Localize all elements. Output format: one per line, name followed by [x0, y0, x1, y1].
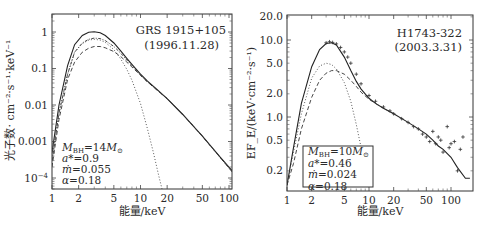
x-tick-label: 20 — [160, 192, 173, 204]
parameter-annotation: MBH=14M⊙a*=0.9ṁ=0.055α=0.18 — [61, 141, 123, 186]
chart-title: GRS 1915+105 — [136, 23, 226, 37]
y-tick-label: 0.01 — [25, 99, 48, 111]
param-line: ṁ=0.024 — [308, 168, 357, 180]
y-tick-label: 2.0 — [266, 87, 283, 99]
y-tick-label: 0.5 — [266, 134, 283, 146]
x-tick-label: 1 — [49, 192, 56, 204]
y-tick-label: 0.1 — [31, 62, 48, 74]
figure: 12510205010010.10.010.00110−4 GRS 1915+1… — [0, 0, 484, 225]
x-tick-label: 10 — [134, 192, 147, 204]
parameter-annotation: MBH=10M⊙a*=0.46ṁ=0.024α=0.18 — [303, 145, 373, 192]
x-tick-label: 2 — [308, 194, 315, 206]
x-axis-title: 能量/keV — [119, 204, 167, 218]
param-line: α=0.18 — [308, 180, 347, 192]
y-axis-title: 光子数· cm⁻²·s⁻¹·keV⁻¹ — [3, 40, 17, 161]
x-tick-label: 1 — [284, 194, 291, 206]
y-tick-label: 10.0 — [260, 34, 283, 46]
chart-grs1915: 12510205010010.10.010.00110−4 GRS 1915+1… — [0, 0, 242, 225]
x-tick-label: 5 — [111, 192, 118, 204]
y-tick-label: 1.0 — [266, 111, 283, 123]
y-tick-label: 0.2 — [266, 164, 283, 176]
x-tick-label: 5 — [341, 194, 348, 206]
x-tick-label: 50 — [196, 192, 209, 204]
x-tick-label: 100 — [219, 192, 239, 204]
y-tick-label: 5.0 — [266, 57, 283, 69]
chart-title: H1743-322 — [397, 26, 462, 40]
y-tick-label: 0.001 — [18, 135, 48, 147]
x-tick-label: 50 — [420, 194, 433, 206]
param-line: α=0.18 — [62, 174, 101, 186]
y-tick-label: 10−4 — [24, 172, 48, 184]
x-tick-label: 100 — [441, 194, 461, 206]
param-line: a*=0.46 — [308, 157, 352, 169]
y-axis-title: EF_E/(keV·cm⁻²·s⁻¹) — [245, 47, 258, 159]
y-tick-label: 20.0 — [260, 10, 283, 22]
chart-date: (2003.3.31) — [394, 40, 462, 54]
x-axis-title: 能量/keV — [357, 204, 405, 218]
chart-date: (1996.11.28) — [144, 38, 219, 52]
chart-h1743: 12510205010020.010.05.02.01.00.50.2 H174… — [242, 0, 484, 225]
x-tick-label: 2 — [75, 192, 82, 204]
y-tick-label: 1 — [41, 26, 48, 38]
